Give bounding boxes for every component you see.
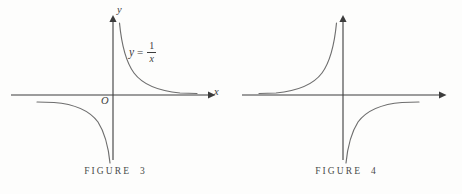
equation-numerator: 1 [147,41,156,52]
figure-4-caption: FIGURE 4 [231,166,462,176]
equation-denominator: x [148,53,156,64]
figure-sheet: y x O y = 1 x FIGURE 3 [0,0,462,194]
figure-3-origin-label: O [101,95,109,106]
figure-3-graph [0,0,231,165]
y-axis-arrow [339,15,346,22]
figure-3-x-axis-label: x [214,86,219,97]
equation-fraction: 1 x [147,41,156,64]
figure-3-plot [0,0,231,165]
figure-4-plot [231,0,462,165]
figure-3-panel: y x O y = 1 x FIGURE 3 [0,0,231,194]
figure-3-y-axis-label: y [117,4,122,15]
curve-branch-quadrant-II [259,23,337,94]
figure-3-caption: FIGURE 3 [0,166,231,176]
figure-4-panel: y x O y = − 1 x FIGURE 4 [231,0,462,194]
equation-lhs: y [129,47,134,59]
x-axis-arrow [439,91,447,98]
curve-branch-quadrant-III [37,102,110,163]
equation-operator: = [137,47,143,58]
figure-3-equation-label: y = 1 x [129,41,157,64]
curve-branch-quadrant-IV [346,102,419,163]
figure-4-graph [231,0,462,165]
y-axis-arrow [109,15,116,22]
